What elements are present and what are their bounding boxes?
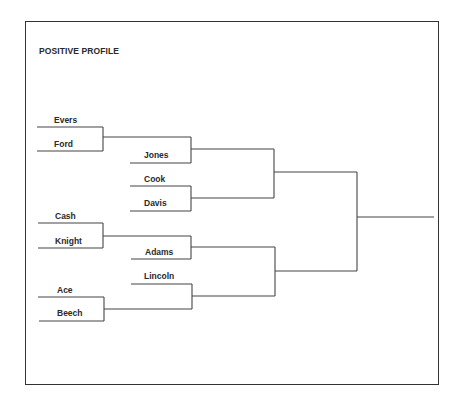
bracket-lines bbox=[0, 0, 459, 405]
